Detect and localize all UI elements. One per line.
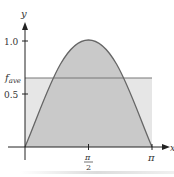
x-tick-label-pi-half-den: 2 (86, 163, 91, 172)
x-tick-label-pi-half-num: π (84, 153, 91, 162)
y-tick-label-05: 0.5 (4, 90, 19, 100)
bottom-divider (20, 171, 174, 174)
y-axis-arrow-icon (22, 22, 28, 30)
x-tick-label-pi: π (147, 152, 155, 163)
y-axis-label: y (20, 8, 27, 19)
f-ave-label: fave (4, 72, 21, 85)
chart-canvas: y 1.0 0.5 fave π 2 π x (0, 0, 174, 177)
x-axis-arrow-icon (162, 144, 170, 150)
x-axis-label: x (170, 143, 174, 153)
y-tick-label-1: 1.0 (4, 37, 19, 47)
